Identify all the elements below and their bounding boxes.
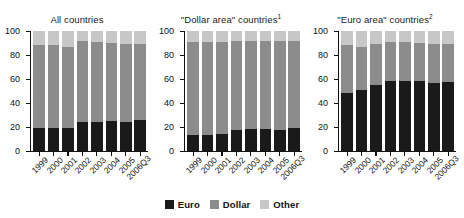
stacked-bar bbox=[202, 31, 214, 151]
bar-segment-dollar bbox=[414, 43, 426, 81]
y-axis-tick bbox=[26, 55, 30, 56]
y-axis-tick-label: 40 bbox=[164, 98, 174, 108]
y-axis-tick-label: 80 bbox=[10, 50, 20, 60]
y-axis-tick bbox=[334, 79, 338, 80]
y-axis-tick-label: 60 bbox=[318, 74, 328, 84]
legend-label: Other bbox=[273, 199, 299, 210]
bar-segment-dollar bbox=[428, 44, 440, 83]
bar-segment-euro bbox=[48, 128, 60, 150]
bar-segment-euro bbox=[62, 128, 74, 151]
chart-legend: EuroDollarOther bbox=[0, 199, 464, 210]
y-axis-tick bbox=[180, 31, 184, 32]
bar-segment-other bbox=[231, 31, 243, 41]
x-axis-labels: 19992000200120022003200420052006Q3 bbox=[31, 156, 148, 196]
bar-segment-euro bbox=[428, 83, 440, 151]
bar-segment-dollar bbox=[288, 41, 300, 128]
panel-dollar-area-countries: "Dollar area" countries1 020406080100 19… bbox=[154, 0, 308, 190]
bar-segment-other bbox=[260, 31, 272, 41]
y-axis-tick-label: 0 bbox=[169, 146, 174, 156]
stacked-bar bbox=[341, 31, 353, 151]
y-axis-tick bbox=[334, 55, 338, 56]
legend-item-dollar: Dollar bbox=[210, 199, 251, 210]
bar-segment-euro bbox=[120, 122, 132, 151]
bar-segment-euro bbox=[370, 85, 382, 151]
x-axis-label: 2000 bbox=[48, 156, 60, 196]
stacked-bar bbox=[245, 31, 257, 151]
y-axis-tick-label: 60 bbox=[10, 74, 20, 84]
x-axis-label: 2001 bbox=[216, 156, 228, 196]
bar-segment-other bbox=[399, 31, 411, 42]
bar-segment-dollar bbox=[245, 41, 257, 130]
x-axis-label: 2006Q3 bbox=[134, 156, 146, 196]
y-axis-tick bbox=[180, 151, 184, 152]
stacked-bar bbox=[120, 31, 132, 151]
bar-segment-dollar bbox=[231, 41, 243, 130]
bar-segment-euro bbox=[77, 122, 89, 151]
y-axis-tick-label: 100 bbox=[5, 26, 20, 36]
y-axis-tick bbox=[26, 79, 30, 80]
bar-segment-dollar bbox=[341, 45, 353, 92]
x-axis-labels: 19992000200120022003200420052006Q3 bbox=[185, 156, 302, 196]
bar-segment-dollar bbox=[91, 42, 103, 122]
stacked-bar bbox=[187, 31, 199, 151]
x-axis-label: 2004 bbox=[260, 156, 272, 196]
panel-row: All countries 020406080100 1999200020012… bbox=[0, 0, 464, 190]
bar-segment-dollar bbox=[202, 42, 214, 135]
stacked-bar bbox=[134, 31, 146, 151]
bar-segment-other bbox=[442, 31, 454, 44]
stacked-bar bbox=[106, 31, 118, 151]
x-axis-label: 2001 bbox=[370, 156, 382, 196]
bar-segment-other bbox=[245, 31, 257, 41]
y-axis-tick bbox=[180, 55, 184, 56]
bar-segment-other bbox=[341, 31, 353, 45]
bar-segment-other bbox=[91, 31, 103, 42]
y-axis-tick-label: 20 bbox=[318, 122, 328, 132]
bar-segment-dollar bbox=[77, 41, 89, 122]
stacked-bar bbox=[231, 31, 243, 151]
legend-label: Dollar bbox=[223, 199, 251, 210]
stacked-bar bbox=[77, 31, 89, 151]
bar-segment-euro bbox=[106, 121, 118, 151]
legend-swatch-icon bbox=[260, 200, 269, 209]
plot-area: 020406080100 199920002001200220032004200… bbox=[184, 31, 302, 152]
panel-euro-area-countries: "Euro area" countries2 020406080100 1999… bbox=[308, 0, 462, 190]
stacked-bar bbox=[260, 31, 272, 151]
stacked-bar bbox=[385, 31, 397, 151]
y-axis-tick-label: 0 bbox=[323, 146, 328, 156]
bar-segment-euro bbox=[91, 122, 103, 150]
x-axis-label: 2003 bbox=[399, 156, 411, 196]
y-axis-tick-label: 40 bbox=[10, 98, 20, 108]
plot-area: 020406080100 199920002001200220032004200… bbox=[30, 31, 148, 152]
bar-segment-other bbox=[385, 31, 397, 42]
bar-segment-other bbox=[428, 31, 440, 44]
figure-stacked-bar-charts: All countries 020406080100 1999200020012… bbox=[0, 0, 464, 218]
stacked-bar bbox=[356, 31, 368, 151]
bar-segment-dollar bbox=[399, 42, 411, 81]
y-axis-tick bbox=[26, 127, 30, 128]
bar-segment-other bbox=[120, 31, 132, 44]
panel-all-countries: All countries 020406080100 1999200020012… bbox=[0, 0, 154, 190]
bar-segment-euro bbox=[356, 90, 368, 150]
bar-segment-dollar bbox=[356, 47, 368, 90]
panel-title: All countries bbox=[0, 14, 154, 25]
y-axis-tick bbox=[334, 103, 338, 104]
legend-item-euro: Euro bbox=[165, 199, 200, 210]
y-axis-tick bbox=[180, 103, 184, 104]
stacked-bar bbox=[91, 31, 103, 151]
bar-segment-other bbox=[134, 31, 146, 44]
bar-segment-other bbox=[288, 31, 300, 41]
x-axis-label: 2000 bbox=[356, 156, 368, 196]
x-axis-labels: 19992000200120022003200420052006Q3 bbox=[339, 156, 456, 196]
bar-segment-other bbox=[62, 31, 74, 47]
y-axis-tick bbox=[334, 31, 338, 32]
stacked-bar bbox=[33, 31, 45, 151]
stacked-bar bbox=[216, 31, 228, 151]
bar-segment-dollar bbox=[216, 42, 228, 134]
bar-segment-euro bbox=[187, 135, 199, 151]
y-axis-tick bbox=[26, 31, 30, 32]
bar-group bbox=[31, 31, 148, 151]
y-axis-tick-label: 80 bbox=[164, 50, 174, 60]
bar-segment-other bbox=[33, 31, 45, 45]
bar-segment-euro bbox=[442, 82, 454, 150]
bar-segment-other bbox=[48, 31, 60, 45]
